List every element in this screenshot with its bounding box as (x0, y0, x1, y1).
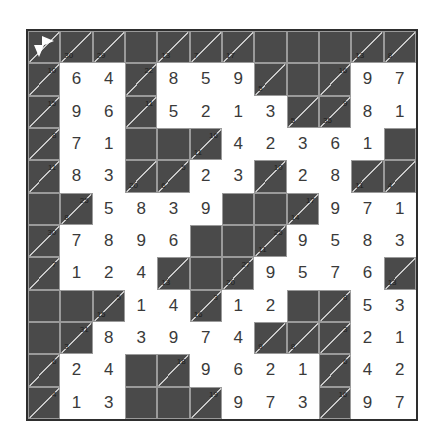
answer-cell[interactable]: 2 (287, 160, 319, 192)
answer-cell[interactable]: 8 (157, 63, 189, 95)
clue-cell: 258 (60, 193, 92, 225)
clue-cell: 2720 (222, 257, 254, 289)
answer-cell[interactable]: 6 (157, 225, 189, 257)
answer-cell[interactable]: 1 (384, 96, 416, 128)
answer-cell[interactable]: 3 (93, 160, 125, 192)
answer-cell[interactable]: 2 (351, 322, 383, 354)
answer-cell[interactable]: 9 (60, 96, 92, 128)
answer-cell[interactable]: 1 (93, 128, 125, 160)
answer-cell[interactable]: 7 (351, 193, 383, 225)
clue-cell: 10 (28, 63, 60, 95)
answer-cell[interactable]: 8 (125, 193, 157, 225)
answer-cell[interactable]: 7 (60, 128, 92, 160)
answer-cell[interactable]: 1 (287, 354, 319, 386)
down-clue: 8 (291, 342, 295, 351)
answer-cell[interactable]: 6 (222, 354, 254, 386)
answer-cell[interactable]: 9 (254, 257, 286, 289)
answer-cell[interactable]: 9 (319, 193, 351, 225)
answer-cell[interactable]: 9 (351, 63, 383, 95)
answer-cell[interactable]: 9 (190, 354, 222, 386)
answer-cell[interactable]: 1 (125, 290, 157, 322)
answer-cell[interactable]: 4 (222, 322, 254, 354)
blocked-cell (125, 128, 157, 160)
answer-cell[interactable]: 5 (287, 257, 319, 289)
answer-cell[interactable]: 5 (190, 63, 222, 95)
answer-cell[interactable]: 9 (190, 193, 222, 225)
answer-cell[interactable]: 8 (351, 225, 383, 257)
answer-cell[interactable]: 9 (222, 63, 254, 95)
answer-cell[interactable]: 2 (254, 354, 286, 386)
down-clue: 11 (194, 148, 202, 157)
answer-cell[interactable]: 9 (125, 225, 157, 257)
answer-cell[interactable]: 9 (222, 387, 254, 419)
answer-cell[interactable]: 4 (125, 257, 157, 289)
answer-cell[interactable]: 3 (384, 225, 416, 257)
answer-cell[interactable]: 7 (384, 63, 416, 95)
answer-cell[interactable]: 4 (157, 290, 189, 322)
answer-cell[interactable]: 5 (319, 225, 351, 257)
answer-cell[interactable]: 1 (384, 322, 416, 354)
answer-cell[interactable]: 4 (93, 63, 125, 95)
answer-cell[interactable]: 3 (222, 160, 254, 192)
answer-cell[interactable]: 8 (60, 160, 92, 192)
answer-cell[interactable]: 2 (93, 257, 125, 289)
clue-cell: 5 (254, 63, 286, 95)
answer-cell[interactable]: 1 (384, 193, 416, 225)
answer-cell[interactable]: 7 (254, 387, 286, 419)
answer-cell[interactable]: 9 (351, 387, 383, 419)
clue-cell: 6 (28, 354, 60, 386)
answer-cell[interactable]: 3 (93, 387, 125, 419)
across-clue: 8 (52, 131, 56, 140)
answer-cell[interactable]: 7 (60, 225, 92, 257)
blocked-cell (222, 193, 254, 225)
answer-cell[interactable]: 9 (157, 322, 189, 354)
answer-cell[interactable]: 7 (319, 257, 351, 289)
answer-cell[interactable]: 3 (125, 322, 157, 354)
answer-cell[interactable]: 6 (351, 257, 383, 289)
answer-cell[interactable]: 1 (60, 257, 92, 289)
across-clue: 6 (343, 357, 347, 366)
answer-cell[interactable]: 8 (93, 225, 125, 257)
clue-cell: 13 (157, 31, 189, 63)
down-clue: 11 (355, 181, 363, 190)
answer-cell[interactable]: 2 (60, 354, 92, 386)
answer-cell[interactable]: 3 (287, 128, 319, 160)
answer-cell[interactable]: 1 (351, 128, 383, 160)
across-clue: 3 (343, 325, 347, 334)
answer-cell[interactable]: 1 (222, 290, 254, 322)
answer-cell[interactable]: 5 (93, 193, 125, 225)
answer-cell[interactable]: 6 (60, 63, 92, 95)
answer-cell[interactable]: 3 (157, 193, 189, 225)
answer-cell[interactable]: 3 (254, 96, 286, 128)
answer-cell[interactable]: 1 (222, 96, 254, 128)
answer-cell[interactable]: 3 (384, 290, 416, 322)
clue-cell: 11 (351, 160, 383, 192)
answer-cell[interactable]: 2 (254, 290, 286, 322)
clue-cell: 1714 (287, 193, 319, 225)
answer-cell[interactable]: 5 (351, 290, 383, 322)
answer-cell[interactable]: 7 (384, 387, 416, 419)
answer-cell[interactable]: 2 (384, 354, 416, 386)
answer-cell[interactable]: 8 (319, 160, 351, 192)
answer-cell[interactable]: 1 (60, 387, 92, 419)
answer-cell[interactable]: 8 (351, 96, 383, 128)
answer-cell[interactable]: 5 (157, 96, 189, 128)
answer-cell[interactable]: 4 (351, 354, 383, 386)
answer-cell[interactable]: 2 (254, 128, 286, 160)
answer-cell[interactable]: 4 (93, 354, 125, 386)
clue-cell: 515 (93, 290, 125, 322)
answer-cell[interactable]: 2 (190, 160, 222, 192)
answer-cell[interactable]: 2 (190, 96, 222, 128)
answer-cell[interactable]: 4 (222, 128, 254, 160)
answer-cell[interactable]: 6 (93, 96, 125, 128)
answer-cell[interactable]: 3 (287, 387, 319, 419)
clue-cell: 11 (28, 160, 60, 192)
blocked-cell (28, 322, 60, 354)
across-clue: 5 (181, 163, 185, 172)
down-clue: 9 (258, 342, 262, 351)
answer-cell[interactable]: 9 (287, 225, 319, 257)
answer-cell[interactable]: 8 (93, 322, 125, 354)
answer-cell[interactable]: 6 (319, 128, 351, 160)
across-clue: 9 (343, 99, 347, 108)
answer-cell[interactable]: 7 (190, 322, 222, 354)
